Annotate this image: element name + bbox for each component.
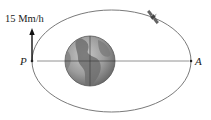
orbit-diagram: 15 Mm/h P A (0, 0, 211, 120)
earth-globe-icon (65, 36, 115, 86)
apogee-point (190, 60, 193, 63)
apogee-label: A (194, 55, 202, 67)
arrow-up-icon (29, 28, 34, 60)
satellite-icon (147, 9, 161, 25)
perigee-point (31, 60, 34, 63)
velocity-label: 15 Mm/h (5, 13, 45, 24)
perigee-label: P (19, 55, 27, 67)
